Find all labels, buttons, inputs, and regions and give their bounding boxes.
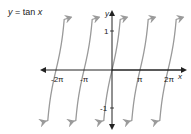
x-tick-negpi: -π [80,75,89,84]
x-tick-2pi: 2π [164,75,174,84]
x-axis-label: x [177,72,183,81]
x-tick-neg2pi: -2π [51,75,64,84]
tan-plot: 1 -1 -2π -π π 2π x y [0,0,191,134]
y-axis-label: y [104,9,110,18]
x-tick-pi: π [137,75,143,84]
y-tick-1: 1 [104,27,109,36]
y-tick-neg1: -1 [100,104,108,113]
